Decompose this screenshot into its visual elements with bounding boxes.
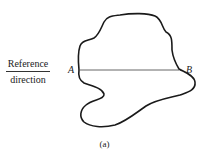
point-a-label: A [68, 64, 74, 75]
point-b-label: B [186, 64, 192, 75]
closed-contour-diagram [0, 0, 209, 154]
figure-caption: (a) [0, 139, 209, 149]
